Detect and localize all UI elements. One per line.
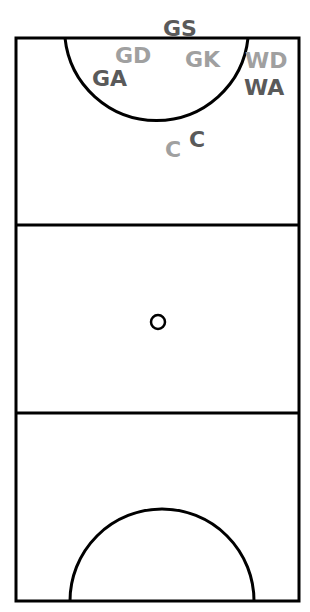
label-ga: GA	[92, 66, 127, 91]
label-gs: GS	[163, 16, 197, 41]
label-c-dark: C	[189, 127, 205, 152]
label-wa: WA	[244, 75, 284, 100]
court-lines	[16, 38, 299, 601]
centre-circle	[151, 315, 165, 329]
label-gd: GD	[115, 43, 151, 68]
label-gk: GK	[185, 47, 221, 72]
label-wd: WD	[245, 48, 288, 73]
label-c-light: C	[165, 137, 181, 162]
goal-circle-bottom	[70, 509, 254, 601]
court-boundary	[16, 38, 299, 601]
netball-court-diagram: GS GD GK WD GA WA C C	[0, 0, 310, 612]
